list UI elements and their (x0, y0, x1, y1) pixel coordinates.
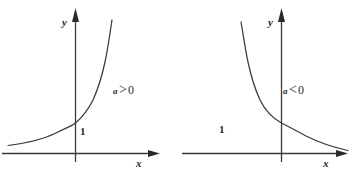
condition-value: 0 (128, 83, 134, 97)
x-axis-left (2, 150, 160, 157)
figure-canvas: y x 1 a>0 y x 1 a<0 (0, 0, 361, 182)
condition-relation-icon: < (288, 82, 298, 97)
x-axis-label: x (323, 158, 329, 169)
y-axis-label: y (268, 17, 273, 28)
y-intercept-tick-label: 1 (219, 124, 225, 135)
chart-panel-exponential-decay: y x 1 a<0 (180, 0, 361, 182)
y-intercept-tick-label: 1 (80, 126, 86, 137)
y-axis-label: y (62, 17, 67, 28)
condition-label-a-greater-than-zero: a>0 (113, 83, 134, 97)
condition-label-a-less-than-zero: a<0 (283, 83, 304, 97)
chart-panel-exponential-growth: y x 1 a>0 (0, 0, 180, 182)
y-axis-left (72, 8, 79, 162)
x-axis-right (182, 150, 348, 157)
x-axis-label: x (136, 158, 142, 169)
curve-exponential-growth (8, 20, 112, 146)
condition-value: 0 (298, 83, 304, 97)
chart-plot-left (0, 0, 180, 182)
condition-relation-icon: > (118, 82, 128, 97)
